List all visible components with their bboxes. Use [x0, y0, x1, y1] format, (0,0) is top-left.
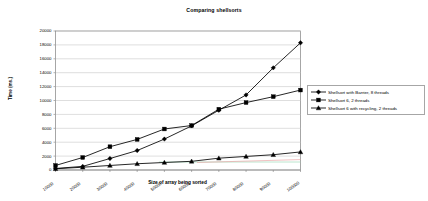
legend-item-label: Shellsort 6, 2 threads — [327, 98, 370, 103]
legend-triangle-marker-icon — [310, 104, 327, 112]
legend-diamond-marker-icon — [310, 88, 327, 96]
chart-legend: Shellsort with Barrier, 8 threadsShellso… — [307, 85, 425, 115]
chart-container: Comparing shellsorts Time (ms.) Size of … — [0, 0, 428, 201]
legend-item-label: Shellsort with Barrier, 8 threads — [327, 90, 389, 95]
legend-item: Shellsort 6 with recycling, 2 threads — [310, 104, 422, 112]
legend-item: Shellsort 6, 2 threads — [310, 96, 422, 104]
legend-item-label: Shellsort 6 with recycling, 2 threads — [327, 106, 397, 111]
legend-square-marker-icon — [310, 96, 327, 104]
legend-item: Shellsort with Barrier, 8 threads — [310, 88, 422, 96]
